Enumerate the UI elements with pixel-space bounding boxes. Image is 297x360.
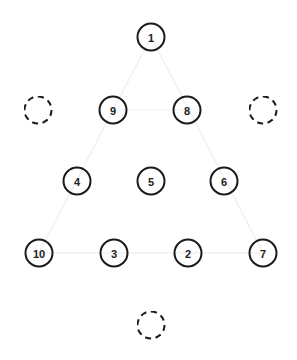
- empty-slot-circle-bottom: [137, 311, 166, 340]
- diagram-canvas: 1 9 8 4 5 6 10 3 2 7: [0, 0, 297, 360]
- node-circle-8: 8: [173, 96, 202, 125]
- node-label: 3: [111, 247, 117, 259]
- node-circle-9: 9: [99, 96, 128, 125]
- node-circle-7: 7: [249, 239, 278, 268]
- empty-slot-circle-right: [249, 96, 278, 125]
- node-label: 8: [184, 104, 190, 116]
- node-circle-4: 4: [63, 167, 92, 196]
- node-label: 4: [74, 175, 80, 187]
- node-circle-10: 10: [25, 239, 54, 268]
- node-circle-6: 6: [210, 167, 239, 196]
- node-circle-3: 3: [100, 239, 129, 268]
- node-circle-2: 2: [174, 239, 203, 268]
- node-label: 7: [260, 247, 266, 259]
- node-label: 2: [185, 247, 191, 259]
- node-label: 5: [148, 175, 154, 187]
- node-circle-1: 1: [137, 23, 166, 52]
- node-label: 9: [110, 104, 116, 116]
- node-label: 1: [148, 31, 154, 43]
- node-label: 6: [221, 175, 227, 187]
- node-circle-5: 5: [137, 167, 166, 196]
- node-label: 10: [33, 247, 45, 259]
- empty-slot-circle-left: [24, 96, 53, 125]
